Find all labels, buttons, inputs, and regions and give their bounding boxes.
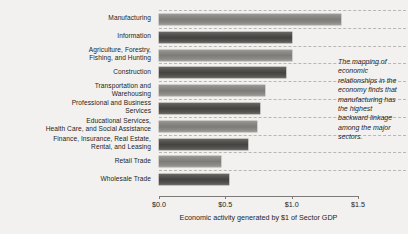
bar-row <box>159 170 358 190</box>
bar <box>159 139 248 150</box>
category-label: Manufacturing <box>0 14 151 22</box>
bars-layer <box>159 10 358 188</box>
bar <box>159 14 341 25</box>
bar <box>159 50 292 61</box>
bar <box>159 103 260 114</box>
x-tick-label: $0.0 <box>152 200 166 209</box>
bar <box>159 174 229 185</box>
x-tick-mark <box>159 196 160 199</box>
bar <box>159 121 257 132</box>
category-label: Professional and BusinessServices <box>0 99 151 115</box>
gridline <box>159 10 406 11</box>
x-axis-title: Economic activity generated by $1 of Sec… <box>159 213 358 222</box>
category-label: Transportation andWarehousing <box>0 82 151 98</box>
bar <box>159 85 265 96</box>
plot-area <box>159 10 358 196</box>
x-tick-mark <box>292 196 293 199</box>
chart-annotation: The mapping of economic relationships in… <box>338 57 404 142</box>
category-label: Construction <box>0 68 151 76</box>
gridline <box>159 170 406 171</box>
bar <box>159 67 286 78</box>
x-tick-mark <box>358 196 359 199</box>
category-label: Finance, Insurance, Real Estate,Rental, … <box>0 135 151 151</box>
gridline <box>159 152 406 153</box>
x-tick-label: $1.5 <box>351 200 365 209</box>
x-tick-mark <box>225 196 226 199</box>
bar <box>159 32 292 43</box>
category-label: Wholesale Trade <box>0 175 151 183</box>
bar-row <box>159 81 358 101</box>
gridline <box>159 46 406 47</box>
category-label: Agriculture, Forestry,Fishing, and Hunti… <box>0 46 151 62</box>
x-tick-label: $0.5 <box>218 200 232 209</box>
bar-chart-figure: ManufacturingInformationAgriculture, For… <box>0 0 408 234</box>
bar <box>159 156 221 167</box>
x-axis-line <box>159 196 358 197</box>
gridline <box>159 28 406 29</box>
category-label: Educational Services,Health Care, and So… <box>0 117 151 133</box>
category-label: Information <box>0 32 151 40</box>
x-tick-label: $1.0 <box>285 200 299 209</box>
category-axis-labels: ManufacturingInformationAgriculture, For… <box>0 10 155 188</box>
category-label: Retail Trade <box>0 157 151 165</box>
